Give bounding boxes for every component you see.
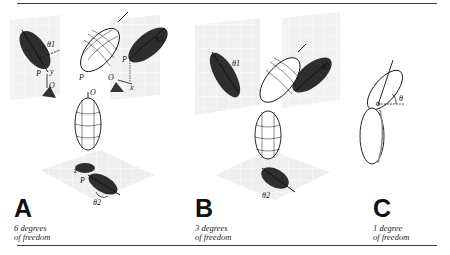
label-theta2: θ2 bbox=[93, 198, 101, 207]
label-b-theta1: θ1 bbox=[232, 59, 240, 68]
label-x: x bbox=[129, 83, 134, 92]
label-o-top: O bbox=[90, 88, 96, 97]
caption-b-line2: of freedom bbox=[195, 233, 231, 242]
caption-c-line2: of freedom bbox=[373, 233, 409, 242]
label-p-left: P bbox=[35, 69, 41, 78]
label-o-left: O bbox=[49, 81, 55, 90]
label-theta1: θ1 bbox=[47, 40, 55, 49]
label-b-theta2: θ2 bbox=[262, 191, 270, 200]
label-y: y bbox=[49, 67, 54, 76]
label-theta3: θ3 bbox=[155, 35, 163, 44]
caption-a: 6 degrees of freedom bbox=[14, 224, 50, 242]
label-b-theta3: θ3 bbox=[322, 63, 330, 72]
caption-b: 3 degrees of freedom bbox=[195, 224, 231, 242]
panel-label-c: C bbox=[373, 196, 391, 221]
lower-ellipsoid bbox=[75, 92, 101, 150]
panel-a-drawing: θ1 P y O P P O x θ3 O bbox=[10, 12, 173, 207]
panel-label-b: B bbox=[195, 196, 213, 221]
label-p-right: P bbox=[121, 55, 127, 64]
panel-c-drawing: θ bbox=[360, 60, 409, 164]
caption-c: 1 degree of freedom bbox=[373, 224, 409, 242]
label-p-floor: P bbox=[79, 176, 85, 185]
label-p-mid: P bbox=[78, 73, 84, 82]
panel-b-drawing: θ1 θ3 θ2 bbox=[195, 12, 340, 200]
label-o-right: O bbox=[108, 73, 114, 82]
panel-label-a: A bbox=[14, 196, 32, 221]
caption-a-line2: of freedom bbox=[14, 233, 50, 242]
label-c-theta: θ bbox=[399, 94, 403, 103]
